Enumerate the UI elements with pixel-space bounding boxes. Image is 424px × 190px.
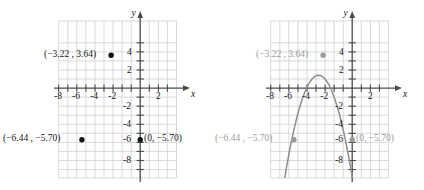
y-tick-label--2: -2	[335, 102, 343, 112]
x-tick-label-2: 2	[368, 92, 373, 102]
y-tick-label-4: 4	[339, 48, 344, 58]
left-graph-svg	[0, 0, 212, 190]
point-y-intercept	[138, 137, 143, 142]
y-tick-label--6: -6	[123, 135, 131, 145]
point-y-intercept	[350, 137, 355, 142]
point-left-root	[79, 137, 84, 142]
y-axis-label: y	[344, 9, 348, 19]
two-panel-coordinate-figure: -8 -6 -4 -2 2 4 2 -2 -4 -6 -8 x y (−3.22…	[0, 0, 424, 190]
x-tick-label--4: -4	[90, 92, 98, 102]
point-label-y-intercept: (0, −5.70)	[356, 134, 394, 144]
x-tick-label--6: -6	[284, 92, 292, 102]
y-axis-label: y	[132, 9, 136, 19]
x-tick-label--2: -2	[108, 92, 116, 102]
y-tick-label-2: 2	[339, 66, 344, 76]
x-tick-label--8: -8	[54, 92, 62, 102]
y-tick-label-2: 2	[127, 66, 132, 76]
y-tick-label--2: -2	[123, 102, 131, 112]
left-panel-points-only: -8 -6 -4 -2 2 4 2 -2 -4 -6 -8 x y (−3.22…	[0, 0, 212, 190]
point-label-left-root: (−6.44 , −5.70)	[3, 134, 60, 144]
x-tick-label--2: -2	[320, 92, 328, 102]
y-tick-label-4: 4	[127, 48, 132, 58]
x-tick-label--8: -8	[266, 92, 274, 102]
x-tick-label-2: 2	[156, 92, 161, 102]
x-axis-label: x	[191, 90, 195, 100]
y-tick-label--4: -4	[335, 120, 343, 130]
y-tick-label--4: -4	[123, 120, 131, 130]
point-vertex	[320, 53, 325, 58]
y-tick-label--8: -8	[335, 156, 343, 166]
point-left-root	[291, 137, 296, 142]
y-axis	[349, 11, 355, 182]
y-tick-label--8: -8	[123, 156, 131, 166]
point-label-y-intercept: (0, −5.70)	[144, 134, 182, 144]
point-vertex	[108, 53, 113, 58]
point-label-vertex: (−3.22 , 3.64)	[44, 50, 96, 60]
right-graph-svg	[212, 0, 424, 190]
point-label-vertex: (−3.22 , 3.64)	[256, 50, 308, 60]
point-label-left-root: (−6.44 , −5.70)	[215, 134, 272, 144]
x-tick-label--4: -4	[302, 92, 310, 102]
x-axis-label: x	[403, 90, 407, 100]
y-axis	[137, 11, 143, 182]
right-panel-parabola: -8 -6 -4 -2 2 4 2 -2 -4 -6 -8 x y (−3.22…	[212, 0, 424, 190]
y-tick-label--6: -6	[335, 135, 343, 145]
x-tick-label--6: -6	[72, 92, 80, 102]
